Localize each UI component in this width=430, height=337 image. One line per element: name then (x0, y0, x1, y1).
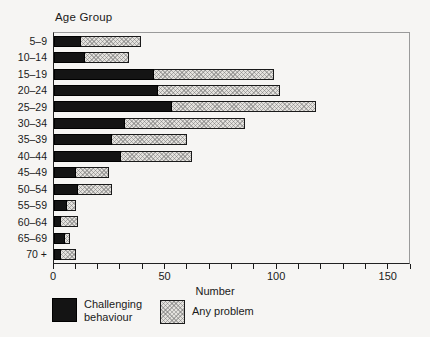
bar (54, 101, 409, 112)
bar (54, 151, 409, 162)
bar-row: 50–54 (54, 181, 409, 197)
y-axis-label: 35–39 (18, 134, 47, 145)
x-axis-tick (298, 264, 299, 269)
x-axis-tick (97, 264, 98, 269)
x-axis-tick (119, 264, 120, 269)
bar-row: 30–34 (54, 115, 409, 131)
bar-row: 70 + (54, 246, 409, 262)
segment-challenging-behaviour (54, 233, 65, 244)
segment-any-problem (172, 101, 316, 112)
bar-row: 35–39 (54, 132, 409, 148)
y-axis-label: 20–24 (18, 85, 47, 96)
bar (54, 85, 409, 96)
segment-challenging-behaviour (54, 36, 81, 47)
x-axis-tick (387, 264, 388, 269)
segment-any-problem (67, 200, 76, 211)
x-axis-title: Number (195, 285, 234, 297)
segment-challenging-behaviour (54, 216, 61, 227)
legend-swatch-black (52, 298, 77, 322)
x-axis-tick (320, 264, 321, 269)
segment-challenging-behaviour (54, 85, 158, 96)
segment-challenging-behaviour (54, 200, 67, 211)
x-axis-tick-label: 0 (50, 271, 56, 282)
x-axis-tick (410, 264, 411, 269)
y-axis-label: 5–9 (29, 36, 47, 47)
legend-label: Any problem (192, 305, 254, 318)
x-axis-tick (365, 264, 366, 269)
legend: Challenging behaviourAny problem (52, 298, 382, 332)
segment-any-problem (61, 216, 79, 227)
bar-row: 25–29 (54, 99, 409, 115)
x-axis-tick (53, 264, 54, 269)
bar-row: 10–14 (54, 49, 409, 65)
x-axis-tick (253, 264, 254, 269)
y-axis-label: 60–64 (18, 217, 47, 228)
bar (54, 134, 409, 145)
bar (54, 184, 409, 195)
segment-challenging-behaviour (54, 151, 121, 162)
y-axis-label: 10–14 (18, 52, 47, 63)
legend-item: Any problem (160, 300, 254, 324)
segment-challenging-behaviour (54, 167, 76, 178)
segment-challenging-behaviour (54, 69, 154, 80)
bar (54, 52, 409, 63)
bar-row: 15–19 (54, 66, 409, 82)
bar (54, 233, 409, 244)
y-axis-label: 50–54 (18, 184, 47, 195)
x-axis-tick-labels: 050100150 (53, 271, 410, 283)
segment-any-problem (78, 184, 111, 195)
x-axis-tick (164, 264, 165, 269)
y-axis-label: 25–29 (18, 102, 47, 113)
segment-challenging-behaviour (54, 118, 125, 129)
segment-challenging-behaviour (54, 249, 61, 260)
y-axis-label: 65–69 (18, 233, 47, 244)
x-axis (53, 264, 410, 270)
legend-swatch-hatch (160, 300, 185, 324)
segment-challenging-behaviour (54, 52, 85, 63)
segment-any-problem (158, 85, 280, 96)
segment-challenging-behaviour (54, 134, 112, 145)
legend-item: Challenging behaviour (52, 298, 158, 324)
bar (54, 249, 409, 260)
x-axis-tick (276, 264, 277, 269)
x-axis-tick-label: 100 (267, 271, 285, 282)
segment-challenging-behaviour (54, 184, 78, 195)
x-axis-tick (343, 264, 344, 269)
bar (54, 167, 409, 178)
y-axis-label: 70 + (26, 249, 47, 260)
plot-area: 5–910–1415–1920–2425–2930–3435–3940–4445… (53, 32, 410, 264)
bar (54, 216, 409, 227)
bar-row: 40–44 (54, 148, 409, 164)
figure: Age Group 5–910–1415–1920–2425–2930–3435… (0, 0, 430, 337)
segment-any-problem (85, 52, 129, 63)
y-axis-label: 30–34 (18, 118, 47, 129)
bar-row: 20–24 (54, 82, 409, 98)
x-axis-tick (75, 264, 76, 269)
bar-row: 45–49 (54, 164, 409, 180)
bar-row: 65–69 (54, 230, 409, 246)
y-axis-label: 55–59 (18, 200, 47, 211)
segment-any-problem (121, 151, 192, 162)
x-axis-tick (186, 264, 187, 269)
segment-any-problem (81, 36, 141, 47)
segment-any-problem (61, 249, 77, 260)
x-axis-tick-label: 50 (158, 271, 170, 282)
bar (54, 118, 409, 129)
bar (54, 36, 409, 47)
bar (54, 69, 409, 80)
bar-row: 55–59 (54, 197, 409, 213)
bar-row: 60–64 (54, 214, 409, 230)
segment-any-problem (125, 118, 245, 129)
y-axis-label: 40–44 (18, 151, 47, 162)
chart-title: Age Group (55, 11, 112, 23)
segment-any-problem (76, 167, 109, 178)
segment-any-problem (154, 69, 274, 80)
legend-label: Challenging behaviour (84, 298, 158, 324)
segment-any-problem (112, 134, 187, 145)
bar-row: 5–9 (54, 33, 409, 49)
x-axis-tick (231, 264, 232, 269)
x-axis-tick (209, 264, 210, 269)
y-axis-label: 45–49 (18, 167, 47, 178)
bar (54, 200, 409, 211)
y-axis-label: 15–19 (18, 69, 47, 80)
